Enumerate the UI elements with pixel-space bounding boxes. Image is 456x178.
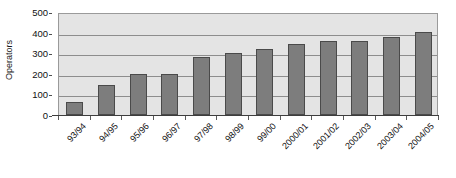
bar (193, 57, 210, 115)
bar (256, 49, 273, 115)
x-tick-label-text: 2003/04 (374, 121, 404, 151)
y-tick-mark (49, 34, 52, 35)
x-tick-label-text: 2001/02 (311, 121, 341, 151)
x-tick-mark (185, 116, 186, 120)
bar (161, 74, 178, 115)
x-tick-mark (343, 116, 344, 120)
y-axis-title: Operators (0, 0, 18, 120)
x-tick-mark (438, 116, 439, 120)
x-tick-mark (153, 116, 154, 120)
y-tick-label: 100 (32, 91, 48, 101)
x-tick-label-text: 99/00 (255, 121, 278, 144)
x-axis-line (52, 115, 439, 116)
bar (320, 41, 337, 115)
bars-layer (59, 14, 437, 115)
bar (98, 85, 115, 115)
y-tick-label: 0 (43, 111, 48, 121)
x-tick-label-text: 95/96 (128, 121, 151, 144)
y-tick-label: 200 (32, 70, 48, 80)
x-tick-label-text: 94/95 (97, 121, 120, 144)
x-tick-label-text: 2002/03 (343, 121, 373, 151)
x-tick-mark (216, 116, 217, 120)
x-tick-label-text: 96/97 (160, 121, 183, 144)
y-tick-label: 300 (32, 49, 48, 59)
bar (225, 53, 242, 115)
bar (351, 41, 368, 115)
x-tick-mark (248, 116, 249, 120)
y-tick-mark (49, 75, 52, 76)
bar (288, 44, 305, 115)
y-tick-mark (49, 95, 52, 96)
x-tick-mark (90, 116, 91, 120)
bar (415, 32, 432, 115)
bar (66, 102, 83, 115)
y-tick-mark (49, 54, 52, 55)
x-tick-mark (280, 116, 281, 120)
y-axis-ticks: 0100200300400500 (20, 13, 52, 116)
bar (383, 37, 400, 115)
bar (130, 74, 147, 115)
x-tick-label-text: 2000/01 (279, 121, 309, 151)
y-tick-label: 400 (32, 29, 48, 39)
x-tick-mark (406, 116, 407, 120)
y-tick-label: 500 (32, 8, 48, 18)
plot-area (58, 13, 438, 116)
x-tick-label-text: 98/99 (223, 121, 246, 144)
x-tick-mark (58, 116, 59, 120)
y-tick-mark (49, 13, 52, 14)
x-tick-mark (375, 116, 376, 120)
y-tick-mark (49, 116, 52, 117)
x-axis-labels: 93/9494/9595/9696/9797/9898/9999/002000/… (58, 121, 438, 178)
x-tick-label-text: 93/94 (65, 121, 88, 144)
bar-chart: Operators 0100200300400500 93/9494/9595/… (0, 0, 456, 178)
y-axis-title-label: Operators (4, 40, 14, 80)
x-tick-label-text: 97/98 (192, 121, 215, 144)
x-tick-mark (311, 116, 312, 120)
x-tick-label-text: 2004/05 (406, 121, 436, 151)
x-tick-mark (121, 116, 122, 120)
